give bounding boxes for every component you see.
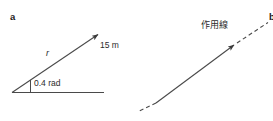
magnitude-label: 15 m [100, 41, 119, 50]
action-line-extension-lower [139, 103, 157, 112]
vector-symbol-label: r [46, 49, 49, 58]
figure-root: a b r 15 m 0.4 rad 作用線 [0, 0, 273, 121]
diagram-canvas [0, 0, 273, 121]
action-line-extension-upper [237, 23, 268, 44]
action-line-label: 作用線 [201, 21, 228, 30]
force-vector-arrow [156, 45, 234, 103]
angle-label: 0.4 rad [34, 79, 60, 88]
